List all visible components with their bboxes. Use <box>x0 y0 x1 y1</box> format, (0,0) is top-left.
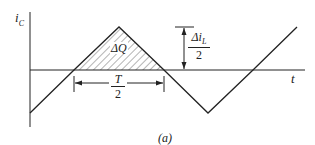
period-arrow-right-icon <box>156 81 163 86</box>
ripple-arrow-down-icon <box>182 62 187 69</box>
ripple-arrow-up-icon <box>182 28 187 35</box>
ripple-label-sub: L <box>202 37 206 46</box>
ripple-label-den: 2 <box>188 49 210 61</box>
capacitor-current-diagram <box>0 0 315 145</box>
ripple-label: ΔiL 2 <box>188 31 210 61</box>
figure-caption: (a) <box>158 132 172 144</box>
y-axis-label-sub: C <box>19 19 24 28</box>
period-label-den: 2 <box>111 88 125 100</box>
x-axis-label: t <box>291 72 295 85</box>
delta-q-label: ΔQ <box>110 42 128 54</box>
period-label-num: T <box>111 73 125 85</box>
period-arrow-left-icon <box>75 81 82 86</box>
ripple-label-num: Δi <box>192 30 202 44</box>
period-label: T 2 <box>111 73 125 100</box>
y-axis-label: iC <box>15 11 24 28</box>
